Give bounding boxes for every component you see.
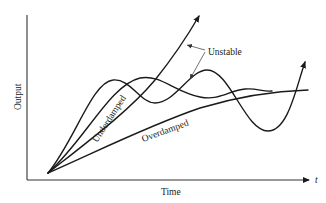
t-label: t bbox=[315, 175, 318, 185]
unstable-label: Unstable bbox=[208, 47, 242, 57]
unstable-leader-1 bbox=[187, 45, 205, 50]
y-axis-label: Output bbox=[13, 83, 23, 110]
curve-unstable-oscillation bbox=[48, 62, 305, 173]
unstable-leader-2 bbox=[190, 52, 205, 79]
curve-underdamped-slow bbox=[48, 77, 272, 173]
x-axis-label: Time bbox=[161, 187, 181, 197]
response-diagram: Unstable Underdamped Overdamped Output T… bbox=[0, 0, 326, 203]
